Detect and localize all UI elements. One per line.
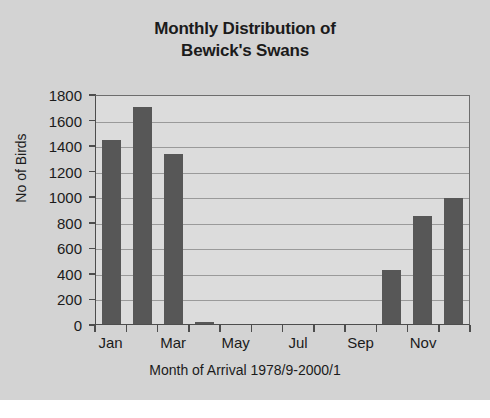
x-axis-tick-mark xyxy=(407,325,409,332)
x-axis-tick-mark xyxy=(282,325,284,332)
y-axis-tick-label: 1600 xyxy=(49,112,82,129)
x-axis-tick-labels: JanMarMayJulSepNov xyxy=(95,334,470,356)
x-axis-tick-label: Jan xyxy=(99,334,123,351)
chart-title-line-2: Bewick's Swans xyxy=(0,40,490,62)
bar-slot xyxy=(314,96,345,324)
bar-slot xyxy=(127,96,158,324)
x-axis-tick-label: Jul xyxy=(289,334,308,351)
y-axis-tick-label: 1000 xyxy=(49,189,82,206)
x-axis-tick-mark xyxy=(219,325,221,332)
bar-dec[interactable] xyxy=(444,198,463,324)
y-axis-tick-label: 200 xyxy=(57,291,82,308)
chart-figure: Monthly Distribution of Bewick's Swans N… xyxy=(0,0,490,400)
x-axis-tick-label: Sep xyxy=(347,334,374,351)
x-axis-tick-marks xyxy=(95,325,470,333)
chart-title: Monthly Distribution of Bewick's Swans xyxy=(0,18,490,62)
bar-slot xyxy=(158,96,189,324)
x-axis-title: Month of Arrival 1978/9-2000/1 xyxy=(0,362,490,378)
x-axis-tick-mark xyxy=(126,325,128,332)
bar-mar[interactable] xyxy=(164,154,183,324)
bar-nov[interactable] xyxy=(413,216,432,324)
bar-slot xyxy=(220,96,251,324)
bar-slot xyxy=(345,96,376,324)
x-axis-tick-mark xyxy=(251,325,253,332)
bar-slot xyxy=(407,96,438,324)
x-axis-tick-mark xyxy=(157,325,159,332)
x-axis-tick-label: May xyxy=(221,334,249,351)
y-axis-tick-label: 1800 xyxy=(49,87,82,104)
y-axis-tick-label: 600 xyxy=(57,240,82,257)
plot-area xyxy=(95,95,470,325)
bar-slot xyxy=(96,96,127,324)
bar-slot xyxy=(282,96,313,324)
x-axis-tick-mark xyxy=(313,325,315,332)
y-axis-tick-label: 1400 xyxy=(49,138,82,155)
figure-bottom-margin xyxy=(0,400,490,418)
x-axis-tick-mark xyxy=(344,325,346,332)
x-axis-tick-mark xyxy=(438,325,440,332)
y-axis-tick-label: 400 xyxy=(57,265,82,282)
bar-feb[interactable] xyxy=(133,107,152,324)
x-axis-tick-mark xyxy=(94,325,96,332)
x-axis-tick-label: Mar xyxy=(160,334,186,351)
bar-jan[interactable] xyxy=(102,140,121,324)
x-axis-tick-mark xyxy=(188,325,190,332)
x-axis-tick-label: Nov xyxy=(410,334,437,351)
x-axis-tick-mark xyxy=(376,325,378,332)
bar-oct[interactable] xyxy=(382,270,401,324)
chart-title-line-1: Monthly Distribution of xyxy=(0,18,490,40)
bar-slot xyxy=(438,96,469,324)
bar-slot xyxy=(376,96,407,324)
bar-apr[interactable] xyxy=(195,322,214,324)
bar-series xyxy=(96,96,469,324)
y-axis-tick-label: 800 xyxy=(57,214,82,231)
bar-slot xyxy=(251,96,282,324)
y-axis-tick-label: 0 xyxy=(74,317,82,334)
x-axis-tick-mark xyxy=(469,325,471,332)
y-axis-tick-labels: 020040060080010001200140016001800 xyxy=(20,95,90,325)
y-axis-tick-label: 1200 xyxy=(49,163,82,180)
bar-slot xyxy=(189,96,220,324)
